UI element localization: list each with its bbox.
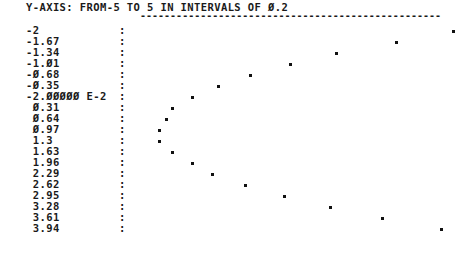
data-point [217,85,220,88]
data-point [171,107,174,110]
data-point [158,129,161,132]
data-point [211,173,214,176]
data-point [191,162,194,165]
data-point [283,195,286,198]
data-point [165,118,168,121]
data-point [249,74,252,77]
data-point [440,228,443,231]
data-point [381,217,384,220]
data-point [171,151,174,154]
x-value-label: 3.94 [26,222,60,234]
data-point [329,206,332,209]
data-point [395,41,398,44]
data-point [289,63,292,66]
y-axis-ruler: ----------------------------------------… [140,10,448,21]
data-point [335,52,338,55]
axis-colon: : [119,222,125,234]
data-point [244,184,247,187]
data-point [452,30,455,33]
data-point [158,140,161,143]
data-point [191,96,194,99]
